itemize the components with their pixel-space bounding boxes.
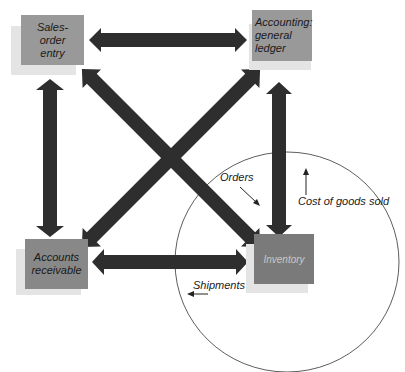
orders-arrow-icon xyxy=(240,187,260,206)
node-accounts-receivable[interactable]: Accounts receivable xyxy=(25,239,88,289)
cost-arrow-icon xyxy=(303,168,309,195)
label-cost-of-goods-sold: Cost of goods sold xyxy=(298,195,389,207)
arrow-sales-accounting xyxy=(89,28,247,52)
arrow-accounting-inventory xyxy=(266,82,292,237)
arrow-receivable-inventory xyxy=(92,249,248,275)
node-inventory[interactable]: Inventory xyxy=(254,234,314,284)
label-shipments: Shipments xyxy=(193,279,245,291)
label-orders: Orders xyxy=(220,171,254,183)
node-sales-order-entry[interactable]: Sales- order entry xyxy=(21,15,84,65)
shipments-arrow-icon xyxy=(187,291,208,297)
arrow-sales-receivable xyxy=(36,79,64,237)
node-accounting-general-ledger[interactable]: Accounting: general ledger xyxy=(252,10,312,61)
